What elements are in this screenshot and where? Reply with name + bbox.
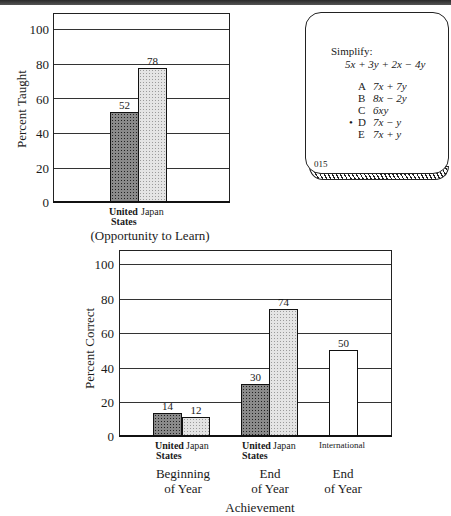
group-intl-end-line1: End xyxy=(303,466,383,481)
problem-expression: 5x + 3y + 2x − 4y xyxy=(345,58,425,70)
tick-100: 100 xyxy=(86,258,114,271)
gridline-100 xyxy=(120,264,391,265)
label-japan-end: Japan xyxy=(273,440,296,451)
group-beginning-line1: Beginning xyxy=(143,466,223,481)
bar-japan-beginning xyxy=(182,417,210,436)
value-international-end: 50 xyxy=(329,338,358,349)
top-border xyxy=(0,0,451,5)
chart1-caption: (Opportunity to Learn) xyxy=(80,228,220,243)
option-b-letter: B xyxy=(358,92,365,104)
label-international: International xyxy=(319,440,365,451)
value-japan-end: 74 xyxy=(269,297,298,308)
tick-60: 60 xyxy=(21,93,49,106)
label-japan: Japan xyxy=(141,206,164,217)
option-a-letter: A xyxy=(358,80,366,92)
option-c-letter: C xyxy=(358,104,365,116)
option-b-text: 8x − 2y xyxy=(373,92,407,104)
option-d-letter: D xyxy=(358,116,366,128)
gridline-100 xyxy=(54,29,229,30)
group-end-line2: of Year xyxy=(230,481,310,496)
group-end-line1: End xyxy=(230,466,310,481)
value-us-beginning: 14 xyxy=(153,401,182,412)
label-us-end-line2: States xyxy=(242,450,268,461)
tick-0: 0 xyxy=(21,196,49,209)
tick-100: 100 xyxy=(21,23,49,36)
bar-us-taught xyxy=(110,112,139,202)
value-japan-taught: 78 xyxy=(138,56,167,67)
tick-60: 60 xyxy=(86,327,114,340)
tick-80: 80 xyxy=(21,58,49,71)
tick-80: 80 xyxy=(86,293,114,306)
problem-prompt: Simplify: xyxy=(331,45,373,57)
bar-japan-taught xyxy=(138,68,167,202)
bar-japan-end xyxy=(269,309,298,436)
group-beginning-line2: of Year xyxy=(143,481,223,496)
correct-answer-marker-icon: • xyxy=(349,116,353,128)
gridline-80 xyxy=(120,299,391,300)
label-japan-beginning: Japan xyxy=(186,440,209,451)
tick-40: 40 xyxy=(21,127,49,140)
option-e-letter: E xyxy=(358,128,365,140)
label-us-beginning-line2: States xyxy=(156,450,182,461)
value-us-taught: 52 xyxy=(110,100,139,111)
tick-20: 20 xyxy=(21,162,49,175)
option-d-text: 7x − y xyxy=(373,116,401,128)
option-a-text: 7x + 7y xyxy=(373,80,407,92)
option-c-text: 6xy xyxy=(373,104,388,116)
chart2-caption: Achievement xyxy=(210,500,310,515)
value-us-end: 30 xyxy=(241,372,270,383)
bar-us-beginning xyxy=(153,413,182,436)
group-intl-end-line2: of Year xyxy=(303,481,383,496)
gridline-60 xyxy=(120,333,391,334)
item-number: 015 xyxy=(314,158,328,170)
y-axis-label: Percent Correct xyxy=(82,299,98,389)
bar-us-end xyxy=(241,384,270,436)
tick-0: 0 xyxy=(86,430,114,443)
value-japan-beginning: 12 xyxy=(182,405,210,416)
label-us-line2: States xyxy=(111,216,137,227)
bar-international-end xyxy=(329,350,358,436)
tick-20: 20 xyxy=(86,396,114,409)
option-e-text: 7x + y xyxy=(373,128,401,140)
tick-40: 40 xyxy=(86,362,114,375)
